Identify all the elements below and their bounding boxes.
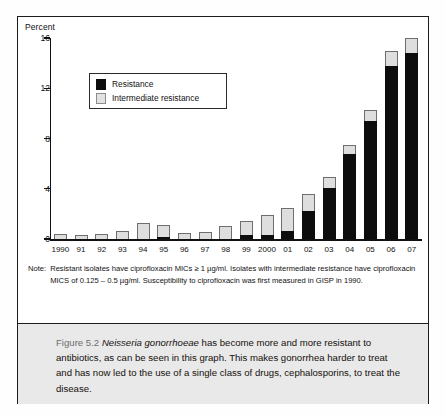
bar-segment-resistance	[405, 53, 418, 239]
bars-layer	[50, 38, 422, 239]
bar-group	[240, 221, 253, 239]
bar-segment-resistance	[385, 66, 398, 239]
bar-segment-resistance	[364, 121, 377, 239]
bar-group	[95, 234, 108, 239]
bar-segment-intermediate	[405, 38, 418, 53]
bar-segment-resistance	[261, 235, 274, 239]
caption-species-name: Neisseria gonorrhoeae	[102, 337, 199, 348]
bar-group	[364, 110, 377, 239]
bar-group	[323, 177, 336, 239]
bar-segment-intermediate	[364, 110, 377, 121]
chart-legend: Resistance Intermediate resistance	[89, 73, 227, 109]
note-text: Resistant isolates have ciprofloxacin MI…	[50, 263, 418, 286]
chart-note: Note: Resistant isolates have ciprofloxa…	[18, 263, 428, 286]
bar-group	[178, 233, 191, 239]
bar-segment-intermediate	[95, 234, 108, 239]
bar-group	[343, 145, 356, 239]
legend-item-intermediate-resistance: Intermediate resistance	[96, 91, 226, 105]
bar-group	[385, 51, 398, 239]
bar-segment-resistance	[240, 235, 253, 239]
y-tick-label: 12	[28, 83, 50, 93]
graph-panel: Percent 0481216 199091929394959697989920…	[18, 17, 428, 324]
legend-item-resistance: Resistance	[96, 77, 226, 91]
figure-number: Figure 5.2	[56, 337, 99, 348]
bar-segment-intermediate	[302, 194, 315, 212]
bar-segment-intermediate	[219, 226, 232, 239]
bar-segment-intermediate	[75, 235, 88, 239]
bar-group	[405, 38, 418, 239]
bar-segment-intermediate	[137, 223, 150, 239]
bar-group	[157, 225, 170, 239]
bar-group	[54, 234, 67, 239]
y-tick-label: 4	[28, 184, 50, 194]
y-tick-label: 8	[28, 134, 50, 144]
figure-outer-frame: Percent 0481216 199091929394959697989920…	[17, 16, 429, 404]
y-tick-label: 0	[28, 234, 50, 244]
bar-group	[199, 232, 212, 239]
y-axis-title: Percent	[25, 22, 55, 32]
bar-segment-intermediate	[343, 145, 356, 154]
bar-segment-intermediate	[323, 177, 336, 187]
bar-group	[261, 215, 274, 239]
bar-segment-intermediate	[116, 231, 129, 239]
figure-caption-band: Figure 5.2 Neisseria gonorrhoeae has bec…	[18, 324, 428, 404]
bar-segment-intermediate	[385, 51, 398, 66]
bar-group	[137, 223, 150, 239]
black-square-swatch-icon	[96, 79, 106, 90]
bar-segment-resistance	[157, 237, 170, 239]
bar-segment-intermediate	[178, 233, 191, 239]
bar-segment-intermediate	[54, 234, 67, 239]
bar-segment-intermediate	[261, 215, 274, 235]
note-label: Note:	[28, 263, 50, 286]
bar-segment-intermediate	[199, 232, 212, 239]
x-tick-label: 07	[398, 245, 426, 254]
bar-segment-intermediate	[157, 225, 170, 237]
bar-group	[75, 235, 88, 239]
bar-segment-resistance	[323, 188, 336, 240]
bar-segment-intermediate	[281, 208, 294, 232]
bar-group	[219, 226, 232, 239]
bar-group	[281, 208, 294, 239]
bar-segment-resistance	[302, 211, 315, 239]
bar-group	[302, 194, 315, 239]
figure-container: Percent 0481216 199091929394959697989920…	[0, 0, 446, 417]
bar-segment-intermediate	[240, 221, 253, 235]
gray-square-swatch-icon	[96, 93, 106, 104]
plot-area: Percent 0481216 199091929394959697989920…	[18, 17, 428, 279]
legend-label-resistance: Resistance	[112, 79, 153, 89]
bar-segment-resistance	[281, 231, 294, 239]
x-axis-ticks: 1990919293949596979899200001020304050607	[50, 245, 422, 259]
figure-caption: Figure 5.2 Neisseria gonorrhoeae has bec…	[56, 335, 406, 396]
x-axis-line	[50, 239, 422, 241]
bar-segment-resistance	[343, 154, 356, 239]
legend-label-intermediate-resistance: Intermediate resistance	[112, 93, 199, 103]
y-tick-label: 16	[28, 33, 50, 43]
bar-group	[116, 231, 129, 239]
